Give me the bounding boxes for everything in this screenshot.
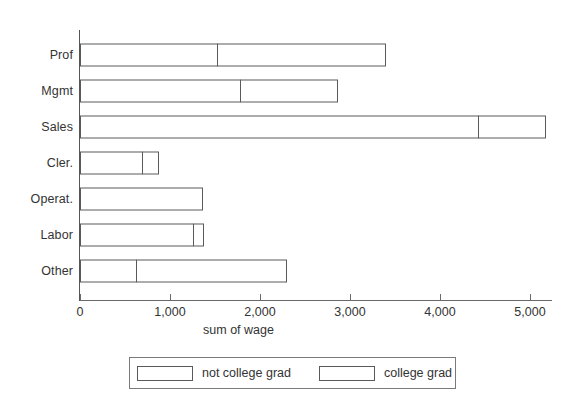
bar-segment-not-college-grad — [80, 260, 137, 283]
x-axis-tick-label: 2,000 — [244, 305, 275, 319]
y-axis-tick-label: Cler. — [47, 156, 73, 170]
x-axis-tick-label: 1,000 — [154, 305, 185, 319]
plot-area: ProfMgmtSalesCler.Operat.LaborOther — [80, 30, 570, 300]
stacked-bar — [80, 44, 385, 67]
legend-label-not-college-grad: not college grad — [202, 366, 291, 380]
stacked-bar — [80, 116, 545, 139]
y-axis-tick-label: Operat. — [31, 192, 73, 206]
bar-segment-not-college-grad — [80, 80, 241, 103]
x-axis-line — [80, 300, 552, 301]
stacked-bar — [80, 188, 202, 211]
bar-segment-college-grad — [217, 44, 386, 67]
x-axis-tick-label: 0 — [77, 305, 84, 319]
stacked-bar-chart: ProfMgmtSalesCler.Operat.LaborOther 01,0… — [0, 0, 577, 403]
y-axis-tick-label: Mgmt — [41, 84, 73, 98]
x-axis-tick — [260, 294, 261, 301]
x-axis-tick — [440, 294, 441, 301]
stacked-bar — [80, 224, 203, 247]
bar-segment-not-college-grad — [80, 152, 143, 175]
x-axis-tick-label: 3,000 — [334, 305, 365, 319]
y-axis-tick-label: Labor — [41, 228, 73, 242]
x-axis-title-label: sum of wage — [203, 323, 274, 337]
y-axis-tick-label: Other — [41, 264, 73, 278]
legend-item-college-grad: college grad — [319, 358, 452, 388]
bar-segment-college-grad — [193, 224, 204, 247]
y-axis-tick-label: Prof — [50, 48, 73, 62]
y-axis-tick-label: Sales — [41, 120, 73, 134]
x-axis-tick-label: 5,000 — [514, 305, 545, 319]
legend-label-college-grad: college grad — [384, 366, 452, 380]
stacked-bar — [80, 260, 286, 283]
bar-segment-not-college-grad — [80, 224, 194, 247]
bar-segment-not-college-grad — [80, 44, 218, 67]
bar-segment-college-grad — [136, 260, 287, 283]
bar-segment-college-grad — [142, 152, 159, 175]
x-axis-tick — [170, 294, 171, 301]
stacked-bar — [80, 80, 337, 103]
x-axis-tick — [80, 294, 81, 301]
bar-segment-college-grad — [240, 80, 338, 103]
x-axis-tick — [350, 294, 351, 301]
chart-legend: not college grad college grad — [129, 357, 456, 389]
bar-segment-not-college-grad — [80, 188, 203, 211]
x-axis-tick — [530, 294, 531, 301]
x-axis-tick-label: 4,000 — [424, 305, 455, 319]
legend-item-not-college-grad: not college grad — [137, 358, 291, 388]
bar-segment-not-college-grad — [80, 116, 479, 139]
legend-swatch-college-grad — [319, 366, 375, 381]
x-axis-title: sum of wage — [0, 323, 577, 337]
stacked-bar — [80, 152, 158, 175]
legend-swatch-not-college-grad — [137, 366, 193, 381]
bar-segment-college-grad — [478, 116, 546, 139]
